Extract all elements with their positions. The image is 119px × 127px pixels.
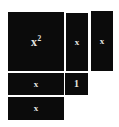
tile-x-squared-base: x xyxy=(31,35,37,49)
tile-x-vertical-2-label: x xyxy=(100,37,105,46)
algebra-tiles-diagram: x2 x x 1 x x xyxy=(0,0,119,127)
tile-x-vertical-1-label: x xyxy=(75,38,80,47)
tile-x-squared-exponent: 2 xyxy=(37,34,41,43)
tile-x-horizontal-1: x xyxy=(8,73,64,95)
tile-x-horizontal-1-label: x xyxy=(34,80,39,89)
tile-x-vertical-1: x xyxy=(66,13,88,71)
tile-x-horizontal-2: x xyxy=(8,97,64,120)
tile-x-horizontal-2-label: x xyxy=(34,104,39,113)
tile-x-squared-label: x2 xyxy=(31,36,41,48)
tile-unit-1-label: 1 xyxy=(74,79,79,89)
tile-x-vertical-2: x xyxy=(91,11,113,71)
tile-unit-1: 1 xyxy=(65,73,88,95)
tile-x-squared: x2 xyxy=(8,12,64,71)
